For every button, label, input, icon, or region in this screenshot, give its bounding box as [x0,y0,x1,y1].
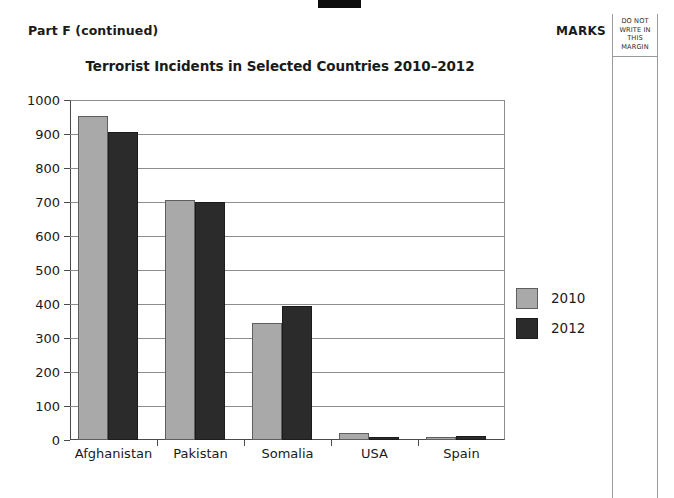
bar-group [70,100,157,440]
legend-item-2010: 2010 [516,283,585,313]
legend-swatch-2012 [516,318,538,339]
do-not-write-margin: DO NOT WRITE IN THIS MARGIN [612,14,658,498]
registration-mark [318,0,361,8]
y-tick-mark [64,168,70,169]
y-tick-label: 600 [8,229,60,244]
bar-group [244,100,331,440]
legend-label: 2010 [551,290,585,306]
y-tick-label: 1000 [8,93,60,108]
legend-swatch-2010 [516,288,538,309]
x-category-label: Spain [418,446,505,461]
bar-usa-2012 [369,437,399,440]
bar-usa-2010 [339,433,369,440]
bar-afghanistan-2012 [108,132,138,440]
y-tick-mark [64,372,70,373]
y-tick-label: 500 [8,263,60,278]
bar-spain-2012 [456,436,486,440]
bar-somalia-2012 [282,306,312,440]
y-tick-mark [64,304,70,305]
y-tick-label: 900 [8,127,60,142]
marks-label: MARKS [556,24,606,38]
bar-group [157,100,244,440]
y-tick-label: 100 [8,399,60,414]
bar-chart: 10009008007006005004003002001000 [70,100,505,440]
y-tick-mark [64,100,70,101]
y-tick-label: 200 [8,365,60,380]
y-tick-label: 0 [8,433,60,448]
bar-spain-2010 [426,437,456,440]
y-tick-label: 400 [8,297,60,312]
y-tick-mark [64,338,70,339]
x-category-label: Afghanistan [70,446,157,461]
y-tick-label: 800 [8,161,60,176]
y-tick-label: 300 [8,331,60,346]
bar-group [331,100,418,440]
x-category-label: Somalia [244,446,331,461]
y-tick-mark [64,270,70,271]
bars-layer [70,100,505,440]
bar-somalia-2010 [252,323,282,440]
y-tick-mark [64,440,70,441]
y-tick-mark [64,236,70,237]
y-axis-labels: 10009008007006005004003002001000 [8,100,60,440]
legend-item-2012: 2012 [516,313,585,343]
y-tick-mark [64,406,70,407]
bar-pakistan-2010 [165,200,195,440]
x-category-label: Pakistan [157,446,244,461]
page-title: Part F (continued) [28,23,158,38]
y-tick-label: 700 [8,195,60,210]
bar-pakistan-2012 [195,202,225,440]
margin-notice-text: DO NOT WRITE IN THIS MARGIN [613,14,657,57]
bar-afghanistan-2010 [78,116,108,440]
chart-title: Terrorist Incidents in Selected Countrie… [0,58,560,74]
bar-group [418,100,505,440]
chart-legend: 20102012 [516,283,585,343]
legend-label: 2012 [551,320,585,336]
y-tick-mark [64,202,70,203]
y-tick-mark [64,134,70,135]
x-category-label: USA [331,446,418,461]
